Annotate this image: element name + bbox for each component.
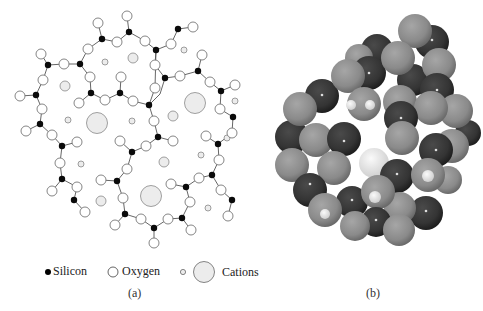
silicon-symbol-icon	[44, 265, 53, 279]
cation-small	[232, 98, 238, 104]
cation-small	[181, 47, 187, 53]
cation-symbols-icon	[178, 259, 222, 285]
caption-panel-b: (b)	[366, 286, 380, 301]
cation-small	[78, 161, 84, 167]
cation-large	[185, 93, 206, 114]
cation-medium	[159, 157, 169, 167]
cations	[60, 47, 238, 211]
oxygen-symbol-icon	[106, 265, 122, 279]
caption-panel-a: (a)	[128, 286, 141, 301]
cation-small	[102, 59, 108, 65]
cation-small	[198, 152, 204, 158]
legend-item-cations: Cations	[178, 259, 259, 285]
cation-large	[141, 186, 162, 207]
cation-medium	[128, 53, 138, 63]
legend-item-silicon: Silicon	[44, 264, 87, 279]
cation-small	[129, 118, 135, 124]
cation-medium	[168, 111, 178, 121]
legend-label-cations: Cations	[222, 265, 259, 280]
spheres	[275, 14, 481, 246]
legend-label-silicon: Silicon	[53, 264, 87, 279]
legend-label-oxygen: Oxygen	[122, 264, 160, 279]
panel-b-space-filling-model	[262, 8, 483, 253]
cation-small	[205, 205, 211, 211]
panel-a-network-diagram	[0, 0, 260, 250]
cation-small	[65, 117, 71, 123]
cation-medium	[60, 81, 70, 91]
cation-medium	[96, 196, 106, 206]
silicate-network-svg	[0, 0, 260, 250]
legend: Silicon Oxygen Cations	[44, 264, 264, 282]
cation-large	[87, 113, 108, 134]
space-filling-svg	[262, 8, 483, 253]
legend-item-oxygen: Oxygen	[106, 264, 160, 279]
